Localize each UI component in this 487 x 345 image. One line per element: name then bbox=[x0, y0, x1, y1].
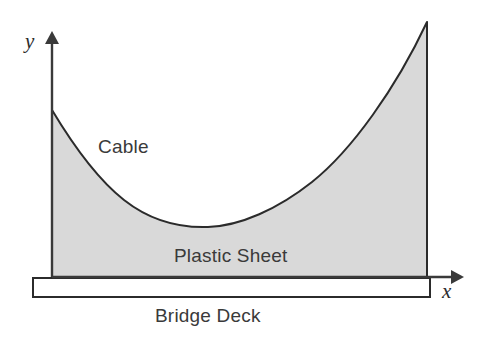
bridge-deck-rect bbox=[33, 278, 430, 297]
plastic-sheet-label: Plastic Sheet bbox=[174, 245, 288, 267]
diagram-canvas bbox=[0, 0, 487, 345]
bridge-deck-label: Bridge Deck bbox=[155, 305, 261, 327]
y-axis-arrowhead bbox=[45, 31, 59, 44]
x-axis-label: x bbox=[442, 279, 451, 304]
cable-label: Cable bbox=[98, 136, 149, 158]
bridge-cable-diagram: y x Cable Plastic Sheet Bridge Deck bbox=[0, 0, 487, 345]
x-axis-arrowhead bbox=[451, 270, 464, 284]
y-axis-label: y bbox=[25, 29, 34, 54]
